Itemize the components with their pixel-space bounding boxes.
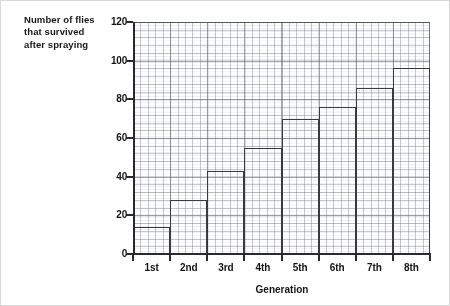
y-axis-tick-label: 60 — [99, 132, 127, 143]
y-axis-tick-label: 40 — [99, 171, 127, 182]
bar — [244, 148, 281, 254]
y-axis-tick-mark — [126, 98, 133, 100]
bar — [393, 68, 430, 254]
y-axis-tick-mark — [126, 176, 133, 178]
x-axis-tick-label: 5th — [280, 262, 320, 273]
x-axis-tick-mark — [318, 254, 320, 261]
x-axis-tick-mark — [243, 254, 245, 261]
y-axis-tick-label: 0 — [99, 248, 127, 259]
y-axis-tick-label: 120 — [99, 16, 127, 27]
x-axis-tick-label: 3rd — [206, 262, 246, 273]
x-axis-tick-mark — [429, 254, 431, 261]
y-axis-tick-mark — [126, 21, 133, 23]
bar — [133, 227, 170, 254]
y-axis-tick-label: 20 — [99, 209, 127, 220]
x-axis-tick-mark — [392, 254, 394, 261]
y-axis-tick-mark — [126, 60, 133, 62]
x-axis-title: Generation — [133, 284, 431, 295]
y-axis-tick-label: 100 — [99, 55, 127, 66]
bar — [170, 200, 207, 254]
x-axis-tick-label: 6th — [317, 262, 357, 273]
y-axis-caption-line-2: that survived — [24, 26, 124, 38]
x-axis-tick-label: 4th — [243, 262, 283, 273]
bar — [207, 171, 244, 254]
x-axis-tick-mark — [355, 254, 357, 261]
x-axis-tick-label: 1st — [132, 262, 172, 273]
y-axis-line — [133, 22, 135, 255]
y-axis-tick-label: 80 — [99, 93, 127, 104]
x-axis-tick-label: 8th — [391, 262, 431, 273]
chart-canvas: Number of flies that survived after spra… — [0, 0, 450, 306]
x-axis-tick-mark — [206, 254, 208, 261]
bar — [319, 107, 356, 254]
plot-area — [133, 22, 430, 254]
x-axis-tick-mark — [169, 254, 171, 261]
x-axis-tick-mark — [132, 254, 134, 261]
x-axis-tick-label: 7th — [354, 262, 394, 273]
y-axis-tick-mark — [126, 214, 133, 216]
y-axis-caption-line-3: after spraying — [24, 39, 124, 51]
x-axis-tick-mark — [281, 254, 283, 261]
bar — [282, 119, 319, 254]
x-axis-tick-label: 2nd — [169, 262, 209, 273]
bar — [356, 88, 393, 254]
y-axis-tick-mark — [126, 137, 133, 139]
